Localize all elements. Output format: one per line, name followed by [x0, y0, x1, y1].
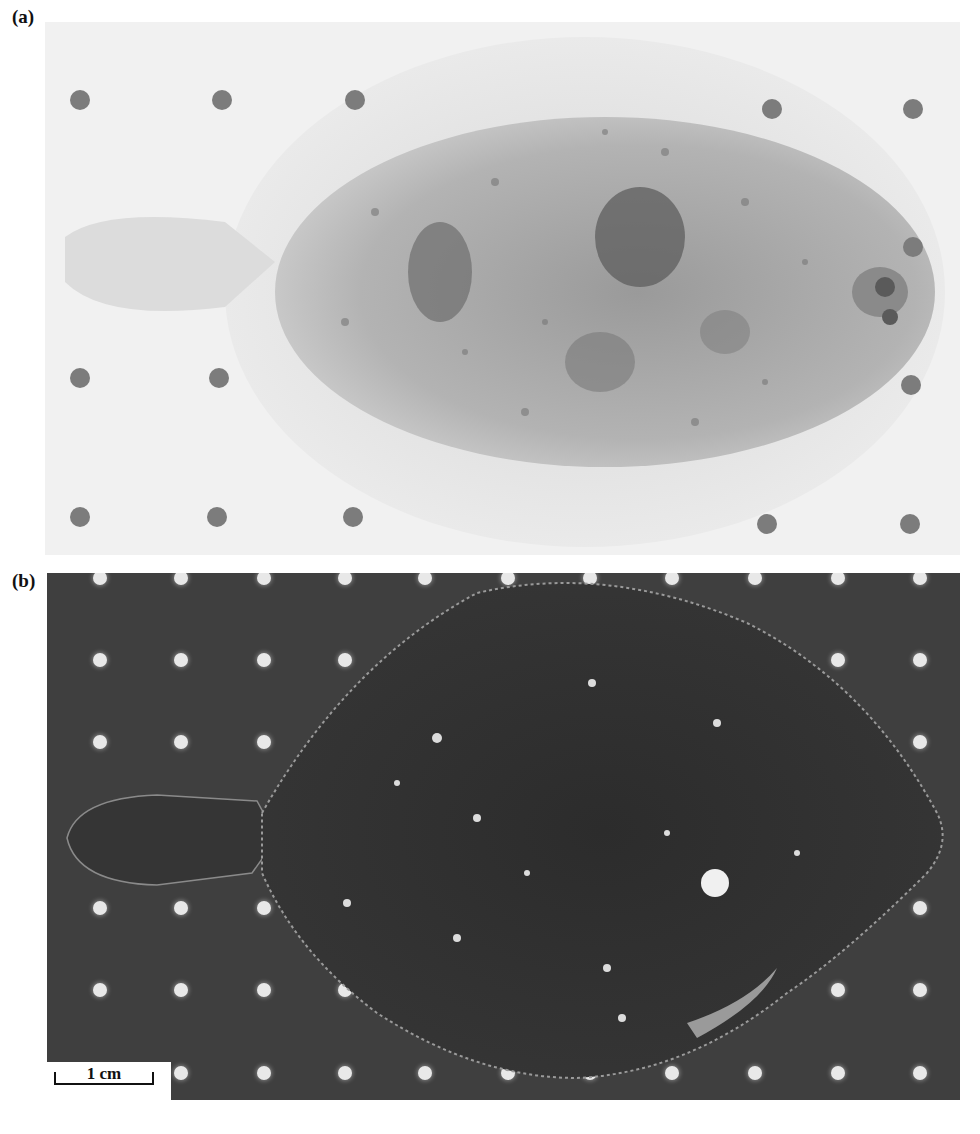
grid-dot	[70, 507, 90, 527]
grid-dot	[207, 507, 227, 527]
grid-dot	[343, 507, 363, 527]
grid-dot	[762, 99, 782, 119]
scale-bar-label: 1 cm	[47, 1064, 161, 1084]
scale-bar: 1 cm	[47, 1062, 171, 1100]
panel-a-photo	[45, 22, 960, 555]
grid-dot	[903, 237, 923, 257]
grid-dot	[345, 90, 365, 110]
flatfish-dark-image	[47, 573, 960, 1100]
panel-a-label: (a)	[12, 6, 34, 28]
scale-bar-line	[54, 1083, 154, 1085]
scale-bar-tick-left	[54, 1072, 56, 1085]
panel-b-photo	[47, 573, 960, 1100]
grid-dot	[70, 90, 90, 110]
grid-dot	[757, 514, 777, 534]
flatfish-light-image	[45, 22, 960, 555]
grid-dot	[209, 368, 229, 388]
grid-dot	[212, 90, 232, 110]
grid-dot	[900, 514, 920, 534]
panel-b-label: (b)	[12, 570, 35, 592]
grid-dot	[903, 99, 923, 119]
scale-bar-tick-right	[152, 1072, 154, 1085]
grid-dot	[901, 375, 921, 395]
grid-dot	[70, 368, 90, 388]
